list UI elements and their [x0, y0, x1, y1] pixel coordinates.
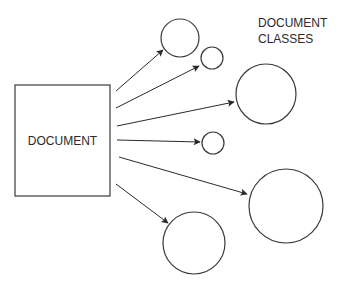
class-circle-c: [236, 64, 296, 124]
arrow-to-class-a: [116, 50, 163, 91]
document-label: DOCUMENT: [28, 134, 98, 148]
arrows: [116, 50, 247, 223]
class-circle-b: [201, 47, 223, 69]
class-circle-a: [161, 19, 199, 57]
arrow-to-class-d: [117, 140, 200, 142]
class-circle-f: [163, 212, 225, 274]
class-circles: [161, 19, 323, 274]
arrow-to-class-f: [116, 184, 168, 223]
classes-title-line2: CLASSES: [258, 32, 313, 46]
document-node: DOCUMENT: [15, 85, 110, 196]
arrow-to-class-b: [116, 66, 199, 108]
classes-title: DOCUMENT CLASSES: [258, 16, 328, 46]
document-classification-diagram: DOCUMENT DOCUMENT CLASSES: [0, 0, 338, 285]
arrow-to-class-e: [119, 157, 247, 194]
arrow-to-class-c: [117, 102, 234, 126]
classes-title-line1: DOCUMENT: [258, 16, 328, 30]
class-circle-e: [249, 169, 323, 243]
class-circle-d: [202, 132, 224, 154]
